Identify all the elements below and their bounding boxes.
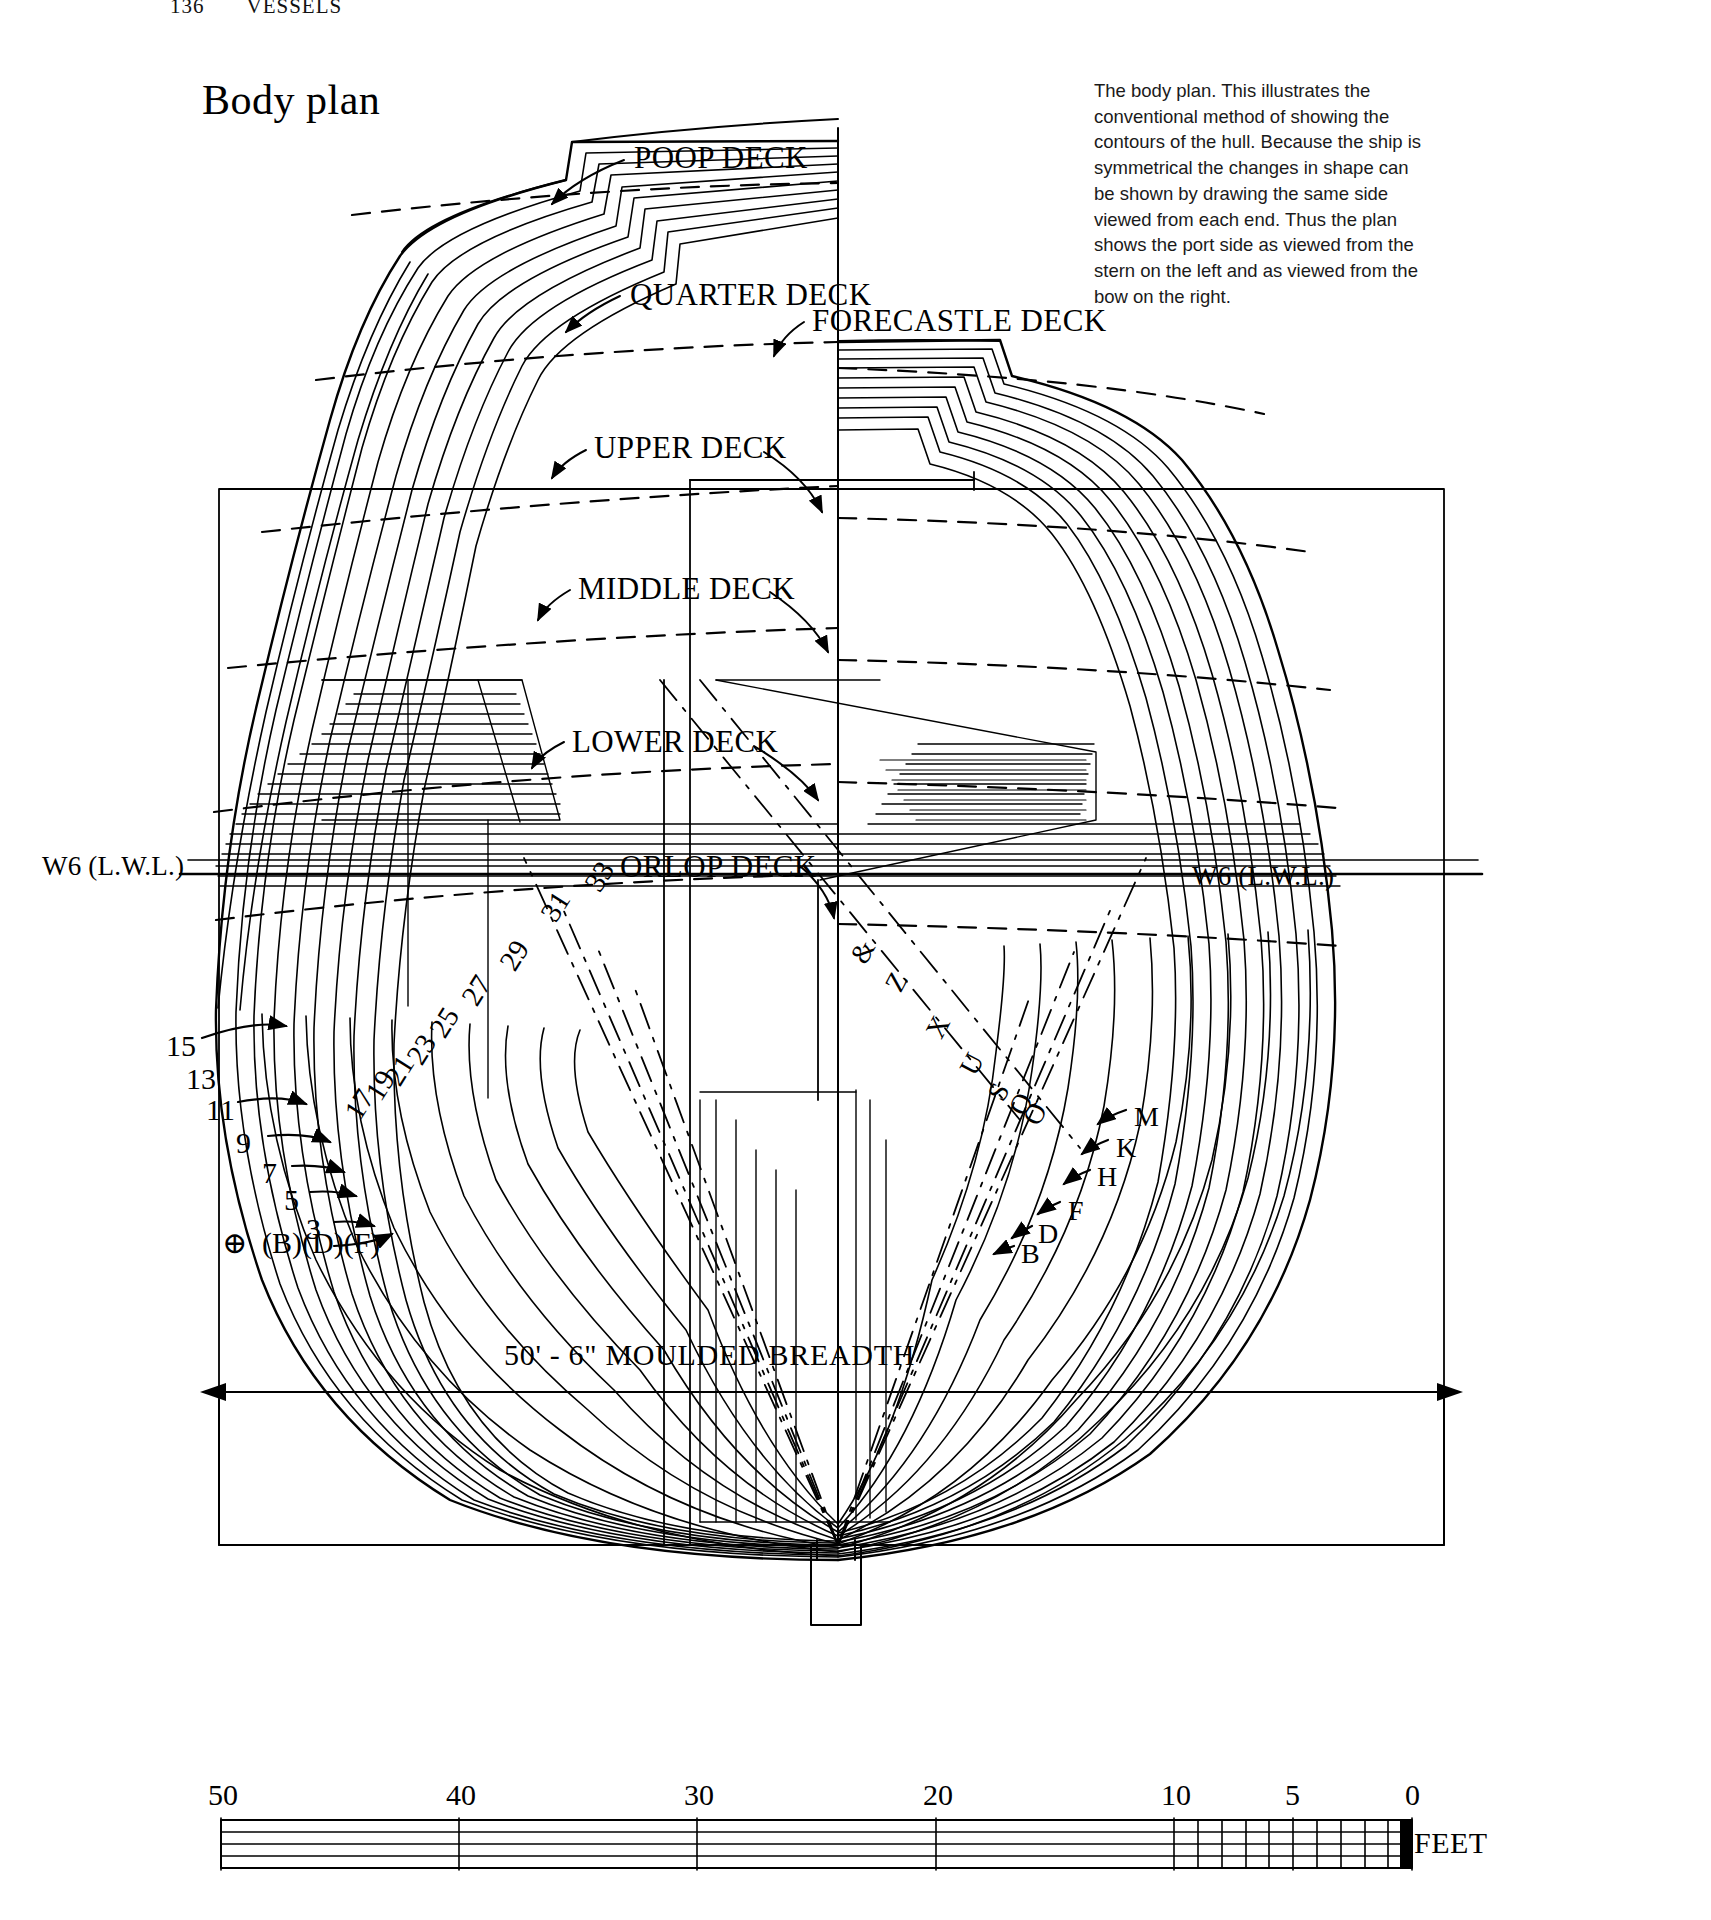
stern-transom-top	[572, 119, 838, 142]
section-letter: M	[1134, 1103, 1159, 1131]
page-canvas: 136VESSELS Body plan The body plan. This…	[0, 0, 1711, 1920]
waterline-label-right: W6 (L.W.L.)	[1192, 863, 1334, 890]
lower-deck-line-l	[214, 764, 838, 812]
scale-tick-label: 40	[446, 1780, 476, 1810]
moulded-breadth-label: 50' - 6" MOULDED BREADTH	[504, 1340, 915, 1370]
scale-tick-label: 50	[208, 1780, 238, 1810]
stern-bilge-3	[350, 1018, 838, 1548]
scale-tick-label: 0	[1405, 1780, 1420, 1810]
station-number: 7	[262, 1158, 277, 1188]
scale-bar	[221, 1818, 1412, 1870]
station-number: 9	[236, 1128, 251, 1158]
station-number: 15	[166, 1031, 196, 1061]
station-number: 5	[284, 1185, 299, 1215]
deck-label-lower: LOWER DECK	[572, 726, 778, 757]
scale-tick-label: 5	[1285, 1780, 1300, 1810]
midship-symbol: ⊕	[222, 1228, 247, 1258]
scale-tick-label: 10	[1161, 1780, 1191, 1810]
deck-label-upper: UPPER DECK	[594, 432, 787, 463]
scale-tick-label: 20	[923, 1780, 953, 1810]
middle-deck-line-l	[228, 628, 838, 668]
section-letter: K	[1116, 1134, 1136, 1162]
drawing-ink	[180, 119, 1482, 1870]
upper-deck-line-l	[262, 486, 838, 532]
section-letter: F	[1068, 1197, 1084, 1225]
leader-lines	[532, 160, 834, 918]
leader-middle-l	[538, 590, 570, 620]
bow-deck-top	[838, 340, 1000, 341]
waterline-label-left: W6 (L.W.L.)	[42, 853, 184, 880]
deck-label-forecastle: FORECASTLE DECK	[812, 305, 1107, 336]
station-number: 11	[206, 1095, 235, 1125]
stern-upper-1	[218, 262, 410, 1008]
section-letter: H	[1097, 1163, 1117, 1191]
section-letter: B	[1021, 1240, 1040, 1268]
stern-bilge-9	[575, 1030, 838, 1524]
midship-frames-label: (B)(D)(F)	[262, 1228, 380, 1258]
stern-bilge-7	[506, 1026, 839, 1532]
leader-upper-l	[552, 450, 586, 478]
leader-forecastle	[774, 322, 804, 356]
section-letter: D	[1038, 1220, 1058, 1248]
middle-deck-line-r	[838, 660, 1330, 690]
bow-bilge-4	[838, 936, 1191, 1544]
scale-tick-label: 30	[684, 1780, 714, 1810]
deck-label-orlop: ORLOP DECK	[620, 851, 817, 882]
scale-unit-label: FEET	[1414, 1828, 1488, 1858]
quarter-deck-line	[316, 342, 838, 380]
bow-bilge-1	[838, 930, 1310, 1556]
bow-hatch-panel	[880, 760, 1086, 820]
deck-label-poop: POOP DECK	[634, 142, 808, 173]
bow-half-sections	[838, 340, 1335, 1560]
station-number: 13	[186, 1064, 216, 1094]
deck-label-middle: MIDDLE DECK	[578, 573, 795, 604]
